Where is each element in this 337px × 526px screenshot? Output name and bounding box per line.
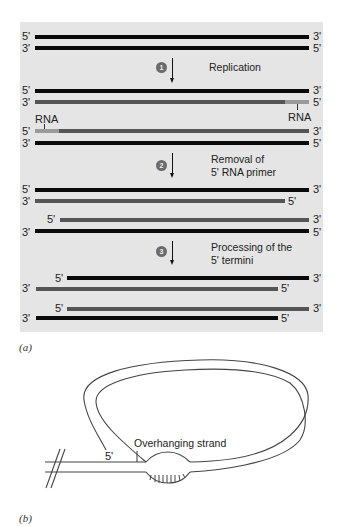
overhanging-strand-label: Overhanging strand [134, 438, 226, 449]
caption-b: (b) [19, 512, 32, 524]
label-5prime: 5' [105, 451, 113, 462]
